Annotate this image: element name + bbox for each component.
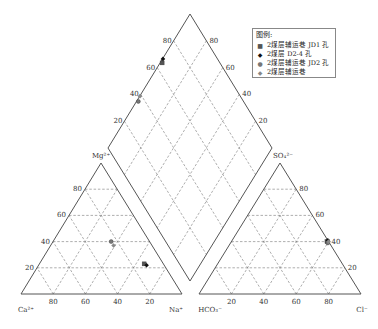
legend-label: 2煤层 D2-4 孔: [267, 50, 312, 59]
tick-label: 80: [299, 185, 308, 193]
axis-label-ca: Ca²⁺: [18, 306, 34, 314]
legend-item: ■ 2煤层辅运巷 JD1 孔: [256, 41, 332, 50]
tick-label: 80: [163, 37, 172, 45]
tick-label: 20: [227, 298, 236, 306]
legend-title: 图例:: [256, 31, 332, 40]
grid-line: [264, 215, 313, 294]
legend: 图例: ■ 2煤层辅运巷 JD1 孔 ◆ 2煤层 D2-4 孔 ● 2煤层辅运巷…: [252, 28, 336, 78]
legend-item: ● 2煤层辅运巷 JD2 孔: [256, 59, 332, 68]
tick-label: 80: [49, 298, 58, 306]
tick-label: 80: [73, 185, 82, 193]
legend-item: ◆ 2煤层辅运巷: [256, 68, 332, 77]
tick-label: 20: [348, 264, 357, 272]
grid-line: [329, 268, 345, 294]
legend-item: ◆ 2煤层 D2-4 孔: [256, 50, 332, 59]
legend-label: 2煤层辅运巷 JD1 孔: [267, 41, 329, 50]
grid-line: [174, 121, 256, 254]
small-diamond-marker-icon: ◆: [256, 68, 264, 77]
circle-marker-icon: ●: [256, 59, 264, 68]
tick-label: 40: [41, 238, 50, 246]
tick-label: 60: [292, 298, 301, 306]
grid-line: [141, 68, 223, 202]
grid-line: [37, 268, 53, 294]
tick-label: 40: [332, 238, 341, 246]
tick-label: 40: [113, 298, 122, 306]
grid-line: [124, 41, 206, 175]
tick-label: 40: [130, 90, 139, 98]
axis-label-cl: Cl⁻: [356, 306, 368, 314]
grid-line: [248, 215, 297, 294]
grid-line: [124, 121, 206, 254]
axis-label-mg: Mg²⁺: [92, 152, 110, 160]
tick-label: 60: [57, 211, 66, 219]
tick-label: 60: [146, 64, 155, 72]
tick-label: 20: [25, 264, 34, 272]
tick-label: 60: [226, 64, 235, 72]
axis-label-hco3: HCO₃⁻: [198, 306, 222, 314]
tick-label: 80: [209, 37, 218, 45]
tick-label: 80: [324, 298, 333, 306]
tick-label: 40: [242, 90, 251, 98]
tick-label: 40: [259, 298, 268, 306]
axis-label-so4: SO₄²⁻: [273, 152, 293, 160]
tick-label: 20: [259, 117, 268, 125]
grid-line: [157, 94, 239, 227]
grid-line: [215, 268, 231, 294]
grid-line: [174, 41, 256, 175]
legend-label: 2煤层辅运巷 JD2 孔: [267, 59, 329, 68]
tick-label: 20: [145, 298, 154, 306]
triangle-outline: [199, 163, 361, 294]
grid-line: [85, 215, 133, 294]
cation-point: [111, 243, 116, 248]
diamond-outline: [108, 14, 272, 281]
axis-label-na: Na⁺: [169, 306, 183, 314]
grid-line: [141, 94, 223, 227]
legend-label: 2煤层辅运巷: [267, 68, 306, 77]
tick-label: 60: [81, 298, 90, 306]
tick-label: 20: [113, 117, 122, 125]
tick-label: 60: [315, 211, 324, 219]
diamond-point: [160, 61, 164, 65]
diamond-marker-icon: ◆: [256, 50, 264, 59]
grid-line: [150, 268, 166, 294]
grid-line: [69, 215, 118, 294]
diamond-point: [136, 99, 140, 103]
cation-point: [109, 240, 113, 244]
square-marker-icon: ■: [256, 41, 264, 50]
grid-line: [157, 68, 239, 202]
